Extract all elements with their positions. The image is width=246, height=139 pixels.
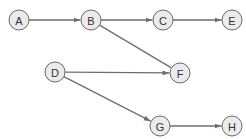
node-g: G bbox=[150, 116, 170, 136]
node-b: B bbox=[81, 10, 101, 30]
graph-svg: ABCEDFGH bbox=[0, 0, 246, 139]
node-label: C bbox=[159, 15, 167, 27]
node-label: H bbox=[228, 121, 236, 133]
node-label: F bbox=[177, 68, 184, 80]
node-d: D bbox=[45, 62, 65, 82]
node-label: G bbox=[156, 121, 165, 133]
node-a: A bbox=[9, 10, 29, 30]
edge-b-f bbox=[100, 25, 171, 68]
node-label: E bbox=[228, 15, 235, 27]
edge-d-g bbox=[64, 77, 151, 122]
node-h: H bbox=[222, 116, 242, 136]
node-c: C bbox=[153, 10, 173, 30]
node-e: E bbox=[222, 10, 242, 30]
node-label: B bbox=[87, 15, 94, 27]
node-label: D bbox=[51, 67, 59, 79]
edge-d-f bbox=[65, 72, 170, 73]
node-f: F bbox=[170, 63, 190, 83]
node-label: A bbox=[15, 15, 23, 27]
graph-canvas: ABCEDFGH bbox=[0, 0, 246, 139]
